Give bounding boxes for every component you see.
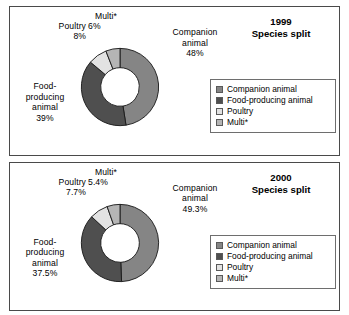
- callout-food-line1-2000: Food-: [14, 237, 76, 248]
- callout-companion-line1-2000: Companion: [164, 183, 226, 194]
- callout-food-producing-animal-1999: Food- producing animal 39%: [14, 81, 76, 123]
- chart-panel-2000-content: Companion animal 49.3%Food-producing ani…: [10, 163, 339, 311]
- legend-row: Food-producing animal: [216, 251, 330, 262]
- callout-companion-animal-1999: Companion animal 48%: [164, 27, 226, 59]
- legend-row: Companion animal: [216, 84, 330, 95]
- callout-companion-value-2000: 49.3%: [164, 204, 226, 215]
- callout-food-line2-1999: producing: [14, 92, 76, 103]
- legend-item-label: Multi*: [227, 118, 248, 127]
- legend-row: Poultry: [216, 106, 330, 117]
- callout-poultry-value-text-1999: 8%: [73, 31, 86, 41]
- legend-item-label: Food-producing animal: [227, 252, 313, 261]
- callout-poultry-value-2000: 7.7%: [40, 187, 86, 198]
- callout-food-value-1999: 39%: [14, 113, 76, 124]
- legend-swatch-icon: [216, 264, 223, 271]
- callout-poultry-value-1999: 8%: [40, 31, 86, 42]
- legend-2000: Companion animalFood-producing animalPou…: [210, 235, 336, 289]
- callout-food-producing-animal-2000: Food- producing animal 37.5%: [14, 237, 76, 279]
- callout-multi-value-text-2000: 5.4%: [88, 177, 108, 187]
- callout-food-line1-1999: Food-: [14, 81, 76, 92]
- donut-svg-2000: Companion animal 49.3%Food-producing ani…: [78, 201, 162, 285]
- callout-food-line3-1999: animal: [14, 102, 76, 113]
- chart-title-subject-1999: Species split: [226, 28, 336, 40]
- callout-multi-label-1999: Multi*: [84, 11, 128, 22]
- callout-food-line2-2000: producing: [14, 247, 76, 258]
- callout-companion-animal-2000: Companion animal 49.3%: [164, 183, 226, 215]
- donut-chart-2000: Companion animal 49.3%Food-producing ani…: [78, 201, 162, 285]
- legend-row: Multi*: [216, 117, 330, 128]
- chart-title-2000: 2000 Species split: [226, 172, 336, 196]
- callout-poultry-name-2000: Poultry: [59, 177, 86, 187]
- legend-1999: Companion animalFood-producing animalPou…: [210, 79, 336, 133]
- callout-poultry-label-1999: Poultry: [40, 21, 86, 32]
- legend-swatch-icon: [216, 275, 223, 282]
- callout-companion-line2-2000: animal: [164, 193, 226, 204]
- callout-multi-value-text-1999: 6%: [88, 21, 101, 31]
- donut-segment: Companion animal 48%: [120, 48, 159, 125]
- legend-item-label: Poultry: [227, 263, 253, 272]
- callout-multi-name-2000: Multi*: [95, 167, 117, 177]
- legend-swatch-icon: [216, 86, 223, 93]
- callout-poultry-value-text-2000: 7.7%: [66, 187, 86, 197]
- donut-segment: Companion animal 49.3%: [120, 204, 159, 281]
- callout-companion-line1-1999: Companion: [164, 27, 226, 38]
- callout-multi-name-1999: Multi*: [95, 11, 117, 21]
- chart-panel-1999: Companion animal 48%Food-producing anima…: [9, 6, 340, 156]
- chart-panel-2000: Companion animal 49.3%Food-producing ani…: [9, 162, 340, 312]
- chart-title-1999: 1999 Species split: [226, 16, 336, 40]
- legend-row: Multi*: [216, 273, 330, 284]
- donut-segment: Food-producing animal 37.5%: [81, 216, 121, 281]
- callout-food-line3-2000: animal: [14, 258, 76, 269]
- legend-swatch-icon: [216, 253, 223, 260]
- chart-title-year-1999: 1999: [226, 16, 336, 28]
- callout-poultry-name-1999: Poultry: [59, 21, 86, 31]
- donut-svg-1999: Companion animal 48%Food-producing anima…: [78, 45, 162, 129]
- legend-item-label: Poultry: [227, 107, 253, 116]
- legend-row: Companion animal: [216, 240, 330, 251]
- callout-poultry-label-2000: Poultry: [40, 177, 86, 188]
- figure-page: Companion animal 48%Food-producing anima…: [0, 0, 349, 315]
- callout-companion-line2-1999: animal: [164, 38, 226, 49]
- callout-multi-value-2000: 5.4%: [88, 177, 122, 188]
- legend-swatch-icon: [216, 119, 223, 126]
- callout-companion-value-1999: 48%: [164, 48, 226, 59]
- legend-swatch-icon: [216, 242, 223, 249]
- chart-title-subject-2000: Species split: [226, 184, 336, 196]
- callout-multi-label-2000: Multi*: [84, 167, 128, 178]
- legend-item-label: Companion animal: [227, 85, 297, 94]
- legend-item-label: Companion animal: [227, 241, 297, 250]
- chart-panel-1999-content: Companion animal 48%Food-producing anima…: [10, 7, 339, 155]
- legend-item-label: Food-producing animal: [227, 96, 313, 105]
- legend-swatch-icon: [216, 108, 223, 115]
- donut-chart-1999: Companion animal 48%Food-producing anima…: [78, 45, 162, 129]
- legend-row: Poultry: [216, 262, 330, 273]
- callout-food-value-2000: 37.5%: [14, 268, 76, 279]
- chart-title-year-2000: 2000: [226, 172, 336, 184]
- legend-item-label: Multi*: [227, 274, 248, 283]
- callout-multi-value-1999: 6%: [88, 21, 122, 32]
- legend-swatch-icon: [216, 97, 223, 104]
- legend-row: Food-producing animal: [216, 95, 330, 106]
